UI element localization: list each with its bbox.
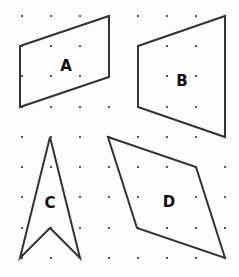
grid-dot (50, 257, 52, 259)
grid-dot (137, 196, 139, 198)
grid-dot (50, 45, 52, 47)
grid-dot (21, 196, 23, 198)
grid-dot (79, 106, 81, 108)
grid-dot (137, 257, 139, 259)
grid-dot (50, 106, 52, 108)
grid-dot (21, 136, 23, 138)
grid-dot (50, 15, 52, 17)
grid-dot (137, 136, 139, 138)
shape-label-d: D (163, 193, 175, 211)
grid-dot (166, 106, 168, 108)
grid-dot (166, 136, 168, 138)
grid-dot (79, 136, 81, 138)
grid-dot (50, 166, 52, 168)
grid-dot (195, 196, 197, 198)
grid-dot (195, 136, 197, 138)
dot-grid-diagram: ABCD (0, 0, 239, 277)
grid-dot (21, 75, 23, 77)
shape-labels: ABCD (44, 57, 187, 212)
grid-dot (108, 257, 110, 259)
shape-label-b: B (176, 72, 187, 90)
grid-dot (195, 106, 197, 108)
shape-label-c: C (44, 194, 55, 212)
grid-dot (21, 15, 23, 17)
grid-dot (195, 227, 197, 229)
grid-dot (137, 15, 139, 17)
grid-dot (195, 257, 197, 259)
grid-dot (195, 45, 197, 47)
grid-dot (224, 196, 226, 198)
grid-dot (79, 227, 81, 229)
grid-dot (166, 75, 168, 77)
grid-dot (224, 166, 226, 168)
grid-dot (79, 75, 81, 77)
grid-dot (195, 15, 197, 17)
grid-dot (50, 75, 52, 77)
grid-dot (108, 106, 110, 108)
grid-dot (166, 45, 168, 47)
grid-dot (79, 166, 81, 168)
shapes-svg: ABCD (0, 0, 239, 277)
grid-dots (21, 15, 226, 259)
grid-dot (166, 166, 168, 168)
grid-dot (21, 166, 23, 168)
grid-dot (166, 227, 168, 229)
shape-label-a: A (60, 57, 72, 75)
grid-dot (224, 227, 226, 229)
grid-dot (21, 227, 23, 229)
shape-outlines (20, 16, 225, 258)
grid-dot (195, 75, 197, 77)
grid-dot (166, 15, 168, 17)
grid-dot (108, 196, 110, 198)
grid-dot (79, 15, 81, 17)
grid-dot (166, 257, 168, 259)
grid-dot (137, 166, 139, 168)
grid-dot (79, 196, 81, 198)
grid-dot (108, 227, 110, 229)
grid-dot (108, 166, 110, 168)
grid-dot (79, 45, 81, 47)
